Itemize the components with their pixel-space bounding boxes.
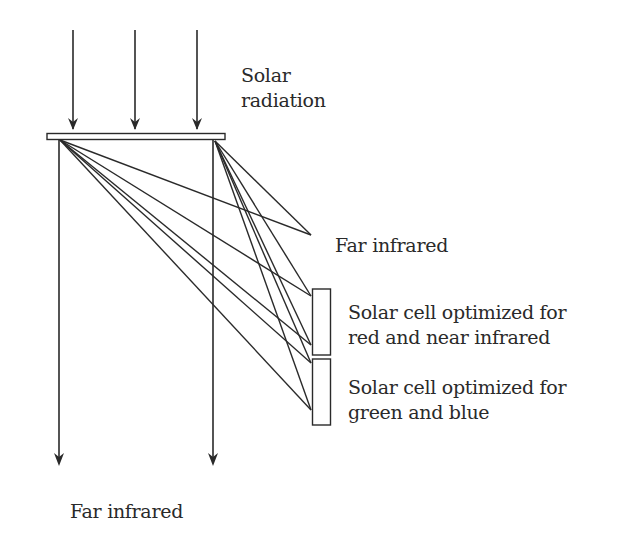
label-far-infrared-transmitted: Far infrared bbox=[70, 499, 183, 524]
label-cell-red-near-infrared: Solar cell optimized for red and near in… bbox=[348, 300, 566, 350]
label-cell-red-line2: red and near infrared bbox=[348, 325, 566, 350]
label-solar-radiation-line1: Solar bbox=[241, 63, 326, 88]
label-solar-radiation-line2: radiation bbox=[241, 88, 326, 113]
incoming-radiation-arrows bbox=[68, 30, 202, 130]
transmitted-far-infrared-arrows bbox=[54, 140, 218, 466]
label-solar-radiation: Solar radiation bbox=[241, 63, 326, 113]
label-cell-green-line1: Solar cell optimized for bbox=[348, 375, 566, 400]
label-cell-green-blue: Solar cell optimized for green and blue bbox=[348, 375, 566, 425]
rays-right-origin bbox=[215, 141, 311, 410]
solar-cell-red-near-infrared bbox=[313, 289, 331, 355]
dispersive-plate bbox=[47, 134, 225, 140]
label-cell-red-line1: Solar cell optimized for bbox=[348, 300, 566, 325]
label-cell-green-line2: green and blue bbox=[348, 400, 566, 425]
solar-cell-green-blue bbox=[313, 359, 331, 425]
label-far-infrared-reflected: Far infrared bbox=[335, 233, 448, 258]
